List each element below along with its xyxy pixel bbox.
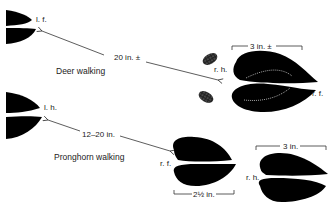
- deer-rh-upper-hoof: [233, 51, 318, 84]
- deer-rf-lower-hoof: [232, 84, 316, 112]
- pronghorn-right-front-track: [173, 137, 236, 186]
- ph-stride-arrow-right: [120, 136, 170, 151]
- deer-length-label: 3 in. ±: [250, 42, 272, 51]
- ph-stride-arrow-left: [48, 120, 80, 131]
- ph-rh-label: r. h.: [246, 173, 259, 182]
- deer-stride-label: 20 in. ±: [114, 53, 141, 62]
- ph-rh-upper-hoof: [260, 153, 328, 176]
- pronghorn-left-hind-track: [6, 92, 42, 139]
- ph-lh-label: l. h.: [44, 103, 57, 112]
- deer-rh-label: r. h.: [214, 65, 227, 74]
- deer-lf-upper-hoof: [6, 10, 32, 26]
- ph-lh-lower-hoof: [6, 116, 42, 139]
- ph-lh-upper-hoof: [6, 92, 40, 113]
- ph-rf-label: r. f.: [160, 159, 171, 168]
- track-diagram: l. f. 20 in. ± Deer walking r. h. r. f. …: [0, 0, 332, 204]
- pronghorn-right-hind-track: [259, 153, 328, 202]
- deer-stride-arrow-left: [42, 31, 104, 55]
- deer-dewclaw-lower: [197, 89, 216, 106]
- ph-stride-label: 12–20 in.: [82, 130, 115, 139]
- ph-length-label: 3 in.: [283, 142, 298, 151]
- deer-left-front-track: [6, 10, 36, 44]
- deer-rf-label: r. f.: [312, 89, 323, 98]
- deer-right-track: [232, 51, 318, 112]
- ph-rf-upper-hoof: [173, 137, 232, 162]
- ph-rf-lower-hoof: [174, 164, 236, 186]
- ph-width-label: 2½ in.: [193, 190, 215, 199]
- deer-lf-label: l. f.: [36, 15, 47, 24]
- ph-rh-lower-hoof: [259, 178, 326, 202]
- deer-caption: Deer walking: [56, 66, 105, 76]
- ph-caption: Pronghorn walking: [54, 152, 125, 162]
- deer-lf-lower-hoof: [6, 28, 36, 44]
